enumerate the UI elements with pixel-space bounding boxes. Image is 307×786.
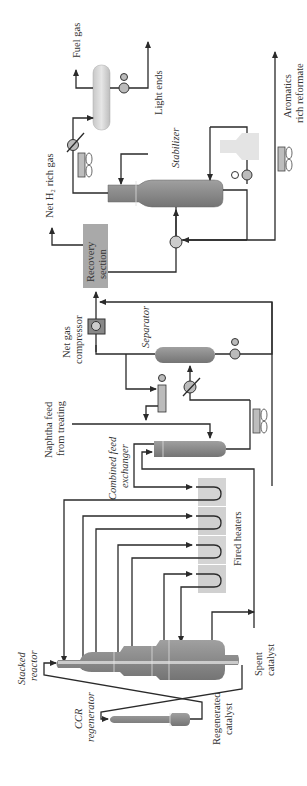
trim-cooler-icon <box>184 381 196 393</box>
fan-blade-icon <box>86 165 92 177</box>
separator-label: Separator <box>140 305 151 348</box>
reboiler-furnace <box>220 133 259 160</box>
light-ends-label: Light ends <box>153 70 164 115</box>
exchanger-hot-out <box>226 445 250 449</box>
heater4-inlet <box>164 574 192 648</box>
separator-vessel <box>155 347 215 363</box>
overhead-line <box>73 186 108 193</box>
stacked-label-2: reactor <box>28 650 39 681</box>
combined-feed-label-2: exchanger <box>119 443 130 488</box>
stacked-label-1: Stacked <box>16 652 27 685</box>
pump-motor-icon <box>121 74 128 81</box>
recycle-compressor <box>158 385 166 412</box>
heater-3-box <box>198 536 226 564</box>
light-ends-line <box>110 42 148 88</box>
combined-feed-exchanger <box>154 441 226 457</box>
bottoms-line <box>223 190 247 240</box>
compressor-icon <box>92 322 101 331</box>
recovery-label-2: section <box>97 249 108 279</box>
stabilizer-group: Stabilizer <box>73 127 259 240</box>
fan-blade-icon <box>286 147 292 159</box>
fuel-gas-drum <box>93 65 110 130</box>
stabilizer-label: Stabilizer <box>170 127 181 168</box>
fan-blade-icon <box>261 409 267 421</box>
fuel-gas-label: Fuel gas <box>71 23 82 58</box>
fuel-gas-line <box>76 70 93 88</box>
combined-feed-label-1: Combined feed <box>107 436 118 500</box>
separator-pump-icon <box>230 349 240 359</box>
heat-exchanger-icon <box>170 236 182 248</box>
stabilizer-column <box>108 180 223 207</box>
recovery-liquid-line <box>108 210 176 272</box>
net-gas-label-1: Net gas <box>61 326 72 358</box>
fired-heaters-label: Fired heaters <box>232 511 243 566</box>
regen-label-1: Regenerated <box>211 692 222 745</box>
recovery-label-1: Recovery <box>85 241 96 282</box>
separator-liquid-line <box>215 302 272 354</box>
separator-motor-icon <box>232 339 239 346</box>
heater-4-box <box>198 565 226 593</box>
net-gas-label-2: compressor <box>73 315 84 364</box>
reactor-outlet-line <box>212 612 254 640</box>
recycle-gas-line <box>126 354 156 389</box>
regen-label-2: catalyst <box>223 703 234 735</box>
recycle-motor-icon <box>159 375 166 382</box>
fan-blade-icon <box>261 421 267 433</box>
process-flow-diagram: Stabilizer Aromatics rich reformate Fuel… <box>0 0 307 786</box>
net-h2-label: Net H₂ rich gas <box>44 153 55 218</box>
naphtha-label-1: Naphtha feed <box>43 401 54 458</box>
air-cooler-icon <box>78 153 85 177</box>
fuel-gas-drum-group <box>67 42 148 186</box>
pump-icon <box>119 83 129 93</box>
reflux-line <box>121 154 148 184</box>
reboiler-pump-icon <box>242 170 252 180</box>
fan-blade-icon <box>86 153 92 165</box>
naphtha-feed-line <box>72 424 210 438</box>
recycle-out-line <box>146 406 158 420</box>
h2-export-line <box>52 228 83 245</box>
ccr-regenerator <box>110 713 190 726</box>
stacked-reactor <box>57 640 240 680</box>
heater-1-box <box>198 478 226 506</box>
separator-inlet-line <box>190 366 250 400</box>
aromatics-label-2: rich reformate <box>294 63 305 123</box>
spent-label-1: Spent <box>253 652 264 676</box>
stacked-reactor-group: Stacked reactor Spent catalyst <box>16 612 276 685</box>
aromatics-label-1: Aromatics <box>282 74 293 118</box>
spent-label-2: catalyst <box>265 644 276 676</box>
ccr-label-2: regenerator <box>85 691 96 742</box>
effluent-cooler-icon <box>253 409 260 433</box>
naphtha-label-2: from treating <box>55 400 66 456</box>
heater-2-box <box>198 507 226 535</box>
reboiler-motor-icon <box>232 172 239 179</box>
ccr-label-1: CCR <box>73 708 84 729</box>
product-cooler-icon <box>278 147 285 171</box>
fan-blade-icon <box>286 159 292 171</box>
